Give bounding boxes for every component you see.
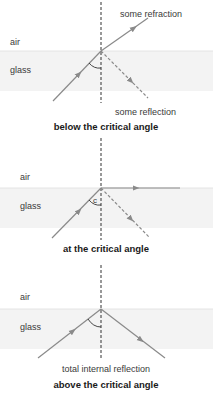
refracted-ray [101, 18, 148, 51]
label-total-internal-reflection: total internal reflection [62, 364, 150, 374]
glass-region [0, 51, 213, 91]
angle-label-c: c [93, 196, 97, 205]
caption-below: below the critical angle [54, 121, 159, 132]
label-air: air [20, 172, 30, 182]
label-air: air [20, 292, 30, 302]
panel-below-critical: air glass some refraction some reflectio… [0, 2, 213, 132]
caption-at: at the critical angle [63, 243, 149, 254]
label-glass: glass [10, 65, 32, 75]
caption-above: above the critical angle [53, 379, 158, 390]
label-some-reflection: some reflection [115, 107, 176, 117]
label-some-refraction: some refraction [120, 9, 182, 19]
label-glass: glass [20, 322, 42, 332]
label-glass: glass [20, 201, 42, 211]
refraction-diagram: air glass some refraction some reflectio… [0, 0, 213, 398]
label-air: air [10, 37, 20, 47]
panel-above-critical: air glass total internal reflection abov… [0, 265, 213, 390]
panel-at-critical: c air glass at the critical angle [0, 138, 213, 254]
